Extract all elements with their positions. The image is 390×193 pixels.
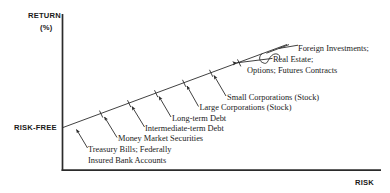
- arrow-money-market: [105, 117, 118, 138]
- risk-return-tradeoff-diagram: RETURN (%) RISK RISK-FREE Treasury Bills…: [0, 0, 390, 193]
- y-axis-title-line1: RETURN: [28, 11, 61, 20]
- x-axis-title: RISK: [355, 178, 374, 187]
- label-treasury-bills-line1: Treasury Bills; Federally: [88, 145, 172, 154]
- label-long-term-debt: Long-term Debt: [172, 114, 227, 123]
- arrow-small-corporations: [214, 76, 226, 97]
- risk-free-label: RISK-FREE: [14, 123, 57, 132]
- label-treasury-bills-line2: Insured Bank Accounts: [88, 156, 166, 165]
- label-intermediate-term-debt: Intermediate-term Debt: [145, 124, 224, 133]
- label-large-corporations-stock: Large Corporations (Stock): [200, 103, 292, 112]
- label-options-futures-contracts: Options; Futures Contracts: [247, 66, 337, 75]
- label-money-market-securities: Money Market Securities: [118, 134, 203, 143]
- arrow-intermediate-term-debt: [132, 107, 145, 128]
- y-axis-title-line2: (%): [40, 23, 53, 32]
- arrow-treasury-bills: [77, 130, 88, 149]
- label-foreign-investments: Foreign Investments;: [298, 44, 369, 53]
- label-small-corporations-stock: Small Corporations (Stock): [227, 93, 319, 102]
- label-real-estate: Real Estate;: [273, 55, 313, 64]
- arrow-large-corporations: [187, 86, 199, 107]
- arrow-long-term-debt: [159, 97, 171, 118]
